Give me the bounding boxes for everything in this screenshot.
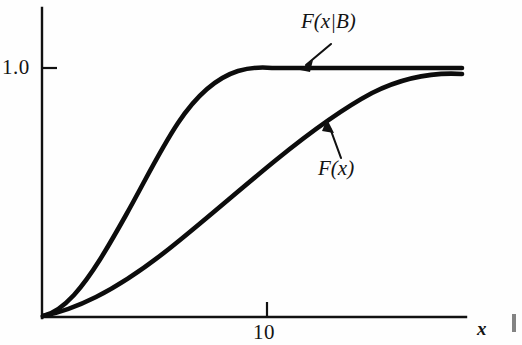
x-axis-tick-label: 10 xyxy=(253,320,275,345)
curve-label-f-x: F(x) xyxy=(318,156,354,181)
x-axis-label: x xyxy=(477,318,487,340)
page-margin-artifact xyxy=(512,314,516,332)
annotation-arrow-conditional-shaft xyxy=(306,44,331,65)
curve-f-x-given-b xyxy=(43,67,462,316)
curve-label-f-x-given-b: F(x|B) xyxy=(301,9,356,34)
y-axis-tick-label: 1.0 xyxy=(2,55,30,80)
plot-area xyxy=(0,0,522,345)
curve-f-x xyxy=(43,74,462,316)
figure-canvas: 1.0 10 x F(x|B) F(x) xyxy=(0,0,522,345)
